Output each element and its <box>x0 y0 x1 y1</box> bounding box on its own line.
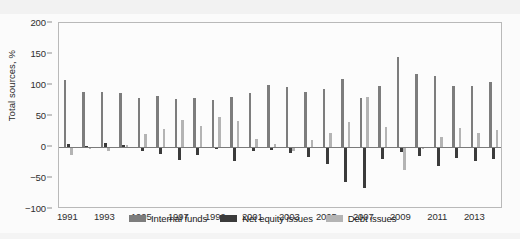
y-axis-tick-label: −50 <box>30 172 46 183</box>
bar <box>181 120 184 147</box>
bar <box>455 147 458 158</box>
bar <box>237 121 240 147</box>
bar <box>304 92 307 147</box>
bar-group <box>300 23 319 207</box>
legend-item: Internal funds <box>129 213 207 224</box>
y-axis-tick-mark <box>47 115 52 116</box>
bar <box>193 98 196 147</box>
y-axis-tick-label: 50 <box>36 110 46 121</box>
x-axis-tick-label: 2011 <box>427 211 447 222</box>
legend-swatch-icon <box>326 215 343 222</box>
bar <box>82 92 85 147</box>
bar-group <box>281 23 300 207</box>
bar-group <box>263 23 282 207</box>
bar <box>452 86 455 147</box>
legend-label: Debt issues <box>348 213 397 224</box>
bar-group <box>170 23 189 207</box>
bar <box>437 147 440 166</box>
bar-group <box>411 23 430 207</box>
bar <box>311 140 314 147</box>
bar <box>492 147 495 159</box>
y-axis-tick-mark <box>47 177 52 178</box>
bar-group <box>115 23 134 207</box>
bar-group <box>466 23 485 207</box>
bar <box>200 126 203 147</box>
bar <box>366 97 369 147</box>
bar <box>101 92 104 147</box>
bar <box>348 122 351 147</box>
bar-group <box>152 23 171 207</box>
page-top-band <box>0 0 520 14</box>
bar <box>159 147 162 154</box>
legend-item: Debt issues <box>326 213 397 224</box>
bar <box>163 129 166 147</box>
bar-group <box>133 23 152 207</box>
bar-group <box>355 23 374 207</box>
bar <box>119 93 122 147</box>
bar-group <box>207 23 226 207</box>
bar <box>156 96 159 147</box>
x-axis-tick-label: 1993 <box>94 211 115 222</box>
y-axis-tick-label: 0 <box>41 141 46 152</box>
bar <box>326 147 329 164</box>
bar <box>255 139 258 147</box>
bar <box>64 80 67 147</box>
chart-page: Total sources, % 200150100500−50−100 Int… <box>0 0 520 239</box>
bar <box>378 86 381 147</box>
y-axis-tick-label: 150 <box>30 48 46 59</box>
bar <box>385 127 388 147</box>
bar-group <box>448 23 467 207</box>
bar <box>397 57 400 147</box>
bar <box>474 147 477 161</box>
x-axis-tick-label: 1991 <box>57 211 78 222</box>
bar <box>212 100 215 147</box>
bar <box>249 93 252 147</box>
legend-swatch-icon <box>220 215 237 222</box>
bar <box>403 147 406 170</box>
bar-group <box>337 23 356 207</box>
bar <box>267 85 270 147</box>
bar <box>178 147 181 160</box>
bar-group <box>59 23 78 207</box>
bar <box>175 99 178 147</box>
bar <box>286 87 289 147</box>
y-axis-tick-mark <box>47 22 52 23</box>
bar <box>138 98 141 147</box>
chart-legend: Internal fundsNet equity issuesDebt issu… <box>129 213 396 224</box>
bar-group <box>226 23 245 207</box>
legend-swatch-icon <box>129 215 146 222</box>
legend-item: Net equity issues <box>220 213 313 224</box>
bar <box>144 134 147 147</box>
bar <box>329 133 332 147</box>
bar <box>471 86 474 147</box>
bars-container <box>59 23 501 207</box>
bar <box>344 147 347 182</box>
bar <box>477 133 480 147</box>
bar <box>218 117 221 147</box>
bar-group <box>485 23 504 207</box>
bar-group <box>392 23 411 207</box>
bar-group <box>374 23 393 207</box>
bar <box>323 89 326 147</box>
bar <box>415 74 418 147</box>
bar-group <box>318 23 337 207</box>
y-axis-tick-label: 200 <box>30 17 46 28</box>
page-bottom-band <box>0 233 520 239</box>
bar <box>70 147 73 155</box>
bar <box>381 147 384 159</box>
y-axis-tick-mark <box>47 53 52 54</box>
y-axis-labels: 200150100500−50−100 <box>0 22 52 208</box>
bar <box>363 147 366 188</box>
legend-label: Net equity issues <box>242 213 313 224</box>
bar <box>196 147 199 155</box>
bar <box>434 76 437 147</box>
y-axis-tick-label: 100 <box>30 79 46 90</box>
bar-group <box>96 23 115 207</box>
legend-label: Internal funds <box>151 213 207 224</box>
zero-baseline <box>59 147 501 148</box>
bar <box>440 137 443 147</box>
bar <box>307 147 310 157</box>
bar <box>360 98 363 147</box>
y-axis-tick-mark <box>47 84 52 85</box>
y-axis-tick-mark <box>47 146 52 147</box>
